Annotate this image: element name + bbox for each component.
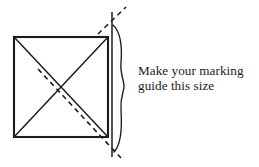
caption-line-1: Make your marking xyxy=(138,64,256,79)
size-brace xyxy=(113,25,124,152)
diagram-page: Make your marking guide this size xyxy=(0,0,259,167)
caption-text: Make your marking guide this size xyxy=(138,64,256,93)
caption-line-2: guide this size xyxy=(138,79,256,94)
